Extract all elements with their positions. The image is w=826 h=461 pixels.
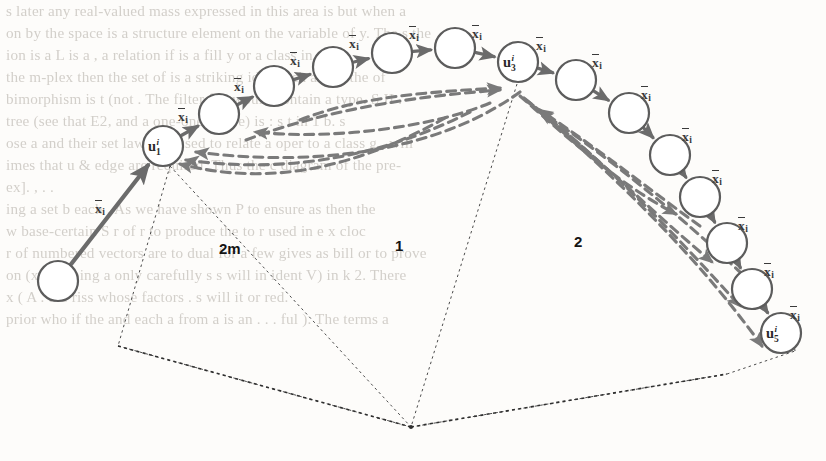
arc-edge-n6-to-n7 <box>476 53 494 57</box>
scanned-figure-page: s later any real-valued mass expressed i… <box>0 0 826 461</box>
graph-node-n2 <box>199 94 239 134</box>
arc-edge-n2-to-n3 <box>238 97 252 104</box>
graph-node-n11 <box>680 177 720 217</box>
graph-node-n7 <box>498 42 538 82</box>
graph-node-n13 <box>732 269 772 309</box>
arc-edge-n11-to-n12 <box>711 216 715 222</box>
graph-node-n3 <box>254 66 294 106</box>
arc-solid-arrows <box>71 50 767 313</box>
dashed-skip-arrows <box>180 88 762 346</box>
graph-node-n12 <box>707 223 747 263</box>
arc-edge-n1-to-n2 <box>182 126 198 135</box>
graph-node-n4 <box>313 47 353 87</box>
graph-node-n1 <box>143 126 183 166</box>
graph-node-n10 <box>650 135 690 175</box>
arc-edge-n12-to-n13 <box>737 262 740 268</box>
graph-node-n5 <box>372 33 412 73</box>
graph-node-n0 <box>38 261 78 301</box>
graph-node-n6 <box>435 28 475 68</box>
arc-edge-n3-to-n4 <box>295 75 310 80</box>
graph-node-n8 <box>556 60 596 100</box>
arc-edge-n8-to-n9 <box>594 91 608 100</box>
arc-edge-n9-to-n10 <box>644 128 653 137</box>
arc-edge-n5-to-n6 <box>413 50 430 51</box>
arc-edge-n7-to-n8 <box>539 68 553 72</box>
arc-edge-n0-to-n1 <box>71 165 148 264</box>
arc-edge-n10-to-n11 <box>683 173 686 178</box>
arc-edge-n13-to-n14 <box>764 307 768 313</box>
arc-edge-n4-to-n5 <box>354 59 368 62</box>
graph-node-n14 <box>761 313 801 353</box>
graph-nodes <box>38 28 801 353</box>
graph-node-n9 <box>609 93 649 133</box>
figure-canvas <box>0 0 826 461</box>
fan-apex-point <box>409 425 413 429</box>
radial-fan-lines-heavy <box>118 346 727 427</box>
